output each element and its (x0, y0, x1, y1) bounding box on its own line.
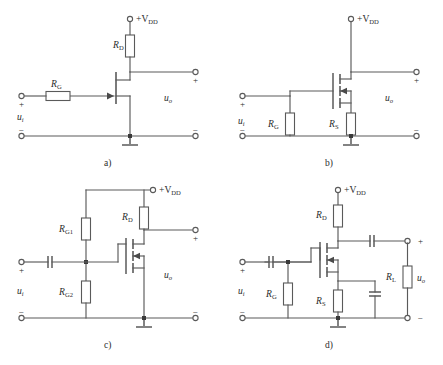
resistor-rd-d (334, 205, 343, 227)
panel-caption-d: d) (325, 340, 333, 351)
resistor-rg-a (46, 92, 70, 101)
output-minus-sign-a: − (193, 125, 198, 135)
output-minus-sign-d: − (418, 313, 423, 323)
input-label-c: ui (17, 285, 24, 297)
input-plus-sign-a: + (19, 99, 24, 109)
panel-caption-b: b) (325, 158, 333, 169)
resistor-rg-b (286, 113, 295, 135)
supply-label-a: +VDD (136, 13, 158, 25)
output-label-b: uo (385, 92, 394, 104)
ground-node-d (336, 316, 340, 320)
output-label-c: uo (164, 269, 173, 281)
gate-node-d (286, 260, 290, 264)
input-plus-sign-c: + (19, 265, 24, 275)
ground-node-b (349, 134, 353, 138)
ground-node-a (128, 134, 132, 138)
resistor-rg-label-b: RG (267, 118, 279, 130)
output-plus-terminal-b[interactable] (414, 69, 419, 74)
output-label-d: uo (417, 272, 426, 284)
supply-terminal-b[interactable] (348, 16, 353, 21)
gate-arrow-a (107, 93, 114, 100)
input-plus-sign-d: + (240, 265, 245, 275)
input-plus-terminal-c[interactable] (19, 259, 24, 264)
output-minus-terminal-d[interactable] (405, 315, 410, 320)
resistor-rg2-c (82, 281, 91, 303)
output-label-a: uo (164, 92, 173, 104)
supply-label-d: +VDD (344, 184, 366, 196)
input-plus-terminal-d[interactable] (240, 259, 245, 264)
input-minus-sign-a: − (19, 125, 24, 135)
ground-node-c (142, 316, 146, 320)
output-minus-sign-b: − (414, 125, 419, 135)
output-plus-sign-d: + (418, 236, 423, 246)
output-plus-terminal-c[interactable] (193, 227, 198, 232)
output-plus-terminal-a[interactable] (193, 69, 198, 74)
resistor-rd-c (140, 207, 149, 229)
panel-b: +VDD RG RS + − ui + − uo b) (238, 13, 419, 169)
supply-label-b: +VDD (357, 13, 379, 25)
supply-terminal-a[interactable] (127, 16, 132, 21)
resistor-rg-d (284, 283, 293, 305)
resistor-rg-label-d: RG (265, 288, 277, 300)
resistor-rg1-label-c: RG1 (58, 223, 73, 235)
resistor-rs-d (334, 290, 343, 312)
input-plus-sign-b: + (240, 99, 245, 109)
output-plus-sign-a: + (193, 75, 198, 85)
input-minus-sign-c: − (19, 307, 24, 317)
resistor-rd-label-d: RD (315, 209, 327, 221)
substrate-arrow-b (340, 88, 347, 94)
resistor-rs-b (347, 113, 356, 135)
resistor-rs-label-d: RS (315, 295, 326, 307)
supply-terminal-d[interactable] (335, 187, 340, 192)
output-plus-sign-c: + (193, 233, 198, 243)
resistor-rd-label-a: RD (112, 39, 124, 51)
resistor-rg2-label-c: RG2 (58, 286, 73, 298)
resistor-rd-a (126, 35, 135, 57)
substrate-arrow-c (133, 253, 140, 259)
panel-a: +VDD RD RG + − ui + − uo a) (17, 13, 198, 169)
circuit-canvas: +VDD RD RG + − ui + − uo a) (0, 0, 443, 365)
input-label-d: ui (238, 285, 245, 297)
panel-d: +VDD RD RG RS RL + − ui + − uo d) (238, 184, 426, 351)
resistor-rl-label-d: RL (385, 271, 396, 283)
output-plus-sign-b: + (414, 75, 419, 85)
supply-terminal-c[interactable] (150, 187, 155, 192)
resistor-rg1-c (82, 218, 91, 240)
supply-label-c: +VDD (159, 184, 181, 196)
input-label-a: ui (17, 111, 24, 123)
input-plus-terminal-a[interactable] (19, 93, 24, 98)
input-minus-sign-d: − (240, 307, 245, 317)
output-minus-sign-c: − (193, 307, 198, 317)
input-label-b: ui (238, 115, 245, 127)
circuit-figure: +VDD RD RG + − ui + − uo a) (0, 0, 443, 365)
resistor-rs-label-b: RS (328, 118, 339, 130)
panel-caption-c: c) (104, 340, 111, 351)
resistor-rg-label-a: RG (50, 78, 62, 90)
resistor-rd-label-c: RD (121, 211, 133, 223)
panel-caption-a: a) (104, 158, 111, 169)
input-plus-terminal-b[interactable] (240, 93, 245, 98)
substrate-arrow-d (327, 257, 334, 263)
panel-c: +VDD RG1 RG2 RD + − ui + − uo c) (17, 184, 198, 351)
resistor-rl-d (403, 266, 412, 288)
